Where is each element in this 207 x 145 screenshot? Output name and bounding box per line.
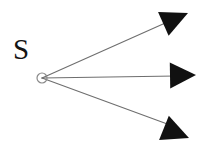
ray-diagram-figure: S [0, 0, 207, 145]
source-label: S [13, 35, 29, 64]
ray-diagram-canvas [0, 0, 207, 145]
